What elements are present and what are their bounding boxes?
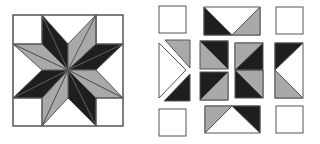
corner-square-top-left: [159, 6, 186, 33]
edge-unit-top: [204, 7, 260, 35]
quilt-diagram: [0, 0, 320, 144]
corner-square-top-right: [276, 7, 303, 34]
edge-unit-right: [275, 43, 303, 98]
edge-unit-bottom: [205, 106, 260, 133]
edge-unit-left: [159, 40, 190, 101]
center-unit-bottom-left: [200, 72, 228, 100]
corner-square-bottom-right: [276, 106, 303, 133]
assembled-quilt-block: [13, 15, 123, 126]
center-unit-top-left: [200, 41, 228, 69]
exploded-quilt-block: [159, 6, 303, 136]
center-unit-right: [235, 43, 263, 98]
corner-square-bottom-left: [159, 109, 186, 136]
